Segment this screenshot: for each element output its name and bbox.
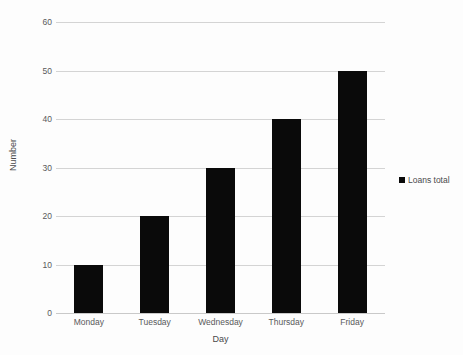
- bar[interactable]: [338, 71, 367, 314]
- bars-layer: [56, 22, 385, 313]
- chart-legend: Loans total: [399, 175, 450, 185]
- y-tick-label: 0: [12, 309, 52, 318]
- bar-slot: [74, 22, 103, 313]
- gridline: [56, 313, 385, 314]
- bar[interactable]: [74, 265, 103, 314]
- bar-slot: [206, 22, 235, 313]
- y-tick-label: 60: [12, 18, 52, 27]
- bar-slot: [272, 22, 301, 313]
- bar[interactable]: [206, 168, 235, 314]
- bar[interactable]: [272, 119, 301, 313]
- y-tick-label: 40: [12, 115, 52, 124]
- legend-label-loans-total: Loans total: [408, 175, 450, 185]
- x-axis-ticks: MondayTuesdayWednesdayThursdayFriday: [56, 317, 385, 331]
- x-tick-label: Friday: [319, 317, 385, 328]
- y-tick-label: 10: [12, 261, 52, 270]
- y-axis-ticks: 0102030405060: [8, 22, 52, 313]
- y-tick-label: 50: [12, 67, 52, 76]
- x-tick-label: Tuesday: [122, 317, 188, 328]
- bar[interactable]: [140, 216, 169, 313]
- bar-chart: Number 0102030405060 MondayTuesdayWednes…: [0, 0, 463, 355]
- bar-slot: [338, 22, 367, 313]
- bar-slot: [140, 22, 169, 313]
- y-tick-label: 30: [12, 164, 52, 173]
- x-axis-title: Day: [56, 334, 385, 344]
- y-tick-label: 20: [12, 212, 52, 221]
- x-tick-label: Wednesday: [188, 317, 254, 328]
- legend-swatch-loans-total: [399, 177, 405, 183]
- plot-area: [56, 22, 385, 313]
- x-tick-label: Thursday: [253, 317, 319, 328]
- x-tick-label: Monday: [56, 317, 122, 328]
